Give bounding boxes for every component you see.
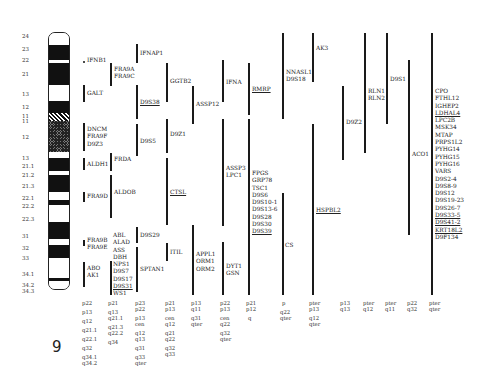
locus-bar: [136, 227, 138, 243]
locus-bar: [431, 33, 433, 295]
locus-bar: [342, 86, 344, 160]
column-8-locations: p q22 qter: [280, 300, 291, 321]
gene-group: APPL1 ORM1 ORM2: [196, 251, 216, 273]
gene-group: NNASL1 D9S18: [286, 69, 312, 84]
band-q12-heterochromatin: [49, 121, 69, 152]
column-6-locations: p22 p13 cen q22 q32 qter: [220, 300, 231, 342]
gene-group: ABL ALAD ASS DBH: [113, 232, 130, 261]
gene-label: D9S5: [140, 138, 156, 145]
band-label: 23: [22, 46, 29, 52]
locus-bar: [83, 85, 85, 102]
chromosome-number: 9: [52, 338, 62, 356]
locus-bar: [408, 60, 410, 235]
locus-bar: [222, 60, 224, 102]
band-p12: [49, 101, 69, 113]
band-label: 12: [22, 104, 29, 110]
gene-label: CTSL: [170, 189, 186, 196]
band-q31: [49, 222, 69, 239]
locus-bar: [83, 192, 85, 202]
gene-label: CS: [285, 242, 293, 249]
locus-bar: [110, 175, 112, 218]
band-label: 32: [22, 245, 29, 251]
band-label: 13: [22, 155, 29, 161]
locus-bar: [222, 119, 224, 226]
column-5-locations: p13 q11 q31 qter: [191, 300, 202, 327]
gene-group: FRA9B FRA9E: [87, 237, 108, 252]
locus-bar: [83, 123, 85, 151]
gene-label: SPTAN1: [140, 266, 164, 273]
locus-bar: [166, 243, 168, 261]
locus-bar: [282, 193, 284, 295]
band-q22-1: [49, 192, 69, 200]
band-label: 24: [22, 33, 29, 39]
locus-bar: [110, 153, 112, 171]
locus-bar: [386, 33, 388, 124]
locus-bar: [83, 240, 85, 246]
gene-label: ITIL: [170, 249, 182, 256]
column-2-locations: p21 q13 q21.1 q21.3 q22.2 q34: [108, 300, 123, 345]
band-label: 21.2: [22, 172, 34, 178]
column-4-locations: p21 p13 cen q12 q21 q22 q32 q33: [165, 300, 175, 357]
band-q21-1: [49, 158, 69, 171]
band-centromere: [49, 113, 69, 121]
band-label: 21.1: [22, 163, 34, 169]
band-q21-3: [49, 175, 69, 192]
column-11-locations: pter q12: [363, 300, 374, 312]
gene-label: AK3: [316, 45, 328, 52]
locus-bar: [166, 119, 168, 153]
locus-bar: [136, 85, 138, 119]
locus-bar: [364, 33, 366, 153]
gene-label: D9S1: [390, 76, 406, 83]
gene-group: ABO AK1: [87, 265, 100, 280]
band-q34-1: [49, 258, 69, 278]
band-label: 21.3: [22, 183, 34, 189]
band-q22-3: [49, 205, 69, 222]
locus-bar: [248, 63, 250, 115]
gene-label: ALDH1: [87, 161, 108, 168]
locus-bar: [110, 63, 112, 86]
band-label: 34.3: [22, 288, 34, 294]
gene-label: GGTB2: [170, 78, 191, 85]
column-7-locations: p21 p12 q: [246, 300, 256, 321]
marker-dot-icon: [83, 61, 85, 63]
locus-bar: [192, 225, 194, 295]
band-label: 22.3: [22, 216, 34, 222]
gene-label: D9Z2: [346, 119, 362, 126]
gene-label: ALDOB: [114, 189, 136, 196]
gene-label: D9S38: [140, 99, 160, 106]
locus-bar: [110, 261, 112, 295]
chromosome-ideogram: [48, 32, 70, 290]
gene-group: FRA9A FRA9C: [114, 66, 135, 81]
column-1-locations: p22 p13 q12 q21.1 q22.1 q32 q34.1 q34.2: [82, 300, 97, 366]
band-label: 22.2: [22, 203, 34, 209]
gene-label: ASSP12: [196, 101, 219, 108]
locus-bar: [312, 33, 314, 82]
locus-bar: [136, 44, 138, 63]
gene-label: D9Z1: [170, 131, 186, 138]
column-12-locations: pter q11: [385, 300, 396, 312]
band-q34-3: [49, 281, 69, 290]
locus-bar: [192, 86, 194, 124]
column-14-locations: pter qter: [429, 300, 440, 312]
band-label: 11: [22, 118, 29, 124]
band-label: 13: [22, 91, 29, 97]
locus-bar: [282, 33, 284, 119]
column-3-locations: p23 p22 p13 cen q12 q13 q31 q33 qter: [135, 300, 146, 366]
locus-bar: [222, 242, 224, 295]
locus-bar: [248, 119, 250, 295]
band-label: 12: [22, 134, 29, 140]
band-label: 22: [22, 57, 29, 63]
gene-group: FPGS GRP78 TSC1 D9S6 D9S10-1 D9S13-6 D9S…: [252, 170, 277, 236]
locus-bar: [136, 247, 138, 292]
gene-label: RMRP: [252, 86, 271, 93]
gene-label: GALT: [87, 90, 103, 97]
gene-group: CPO FTHL12 IGHEP2 LDHAL4 LPC2B MSK34 MTA…: [435, 88, 464, 241]
locus-bar: [83, 262, 85, 287]
gene-label: ACO1: [412, 151, 429, 158]
column-10-locations: p13 q13: [340, 300, 350, 312]
band-label: 21: [22, 71, 29, 77]
gene-label: D9S29: [140, 232, 160, 239]
locus-bar: [83, 158, 85, 170]
locus-bar: [166, 158, 168, 225]
band-p23: [49, 45, 69, 60]
